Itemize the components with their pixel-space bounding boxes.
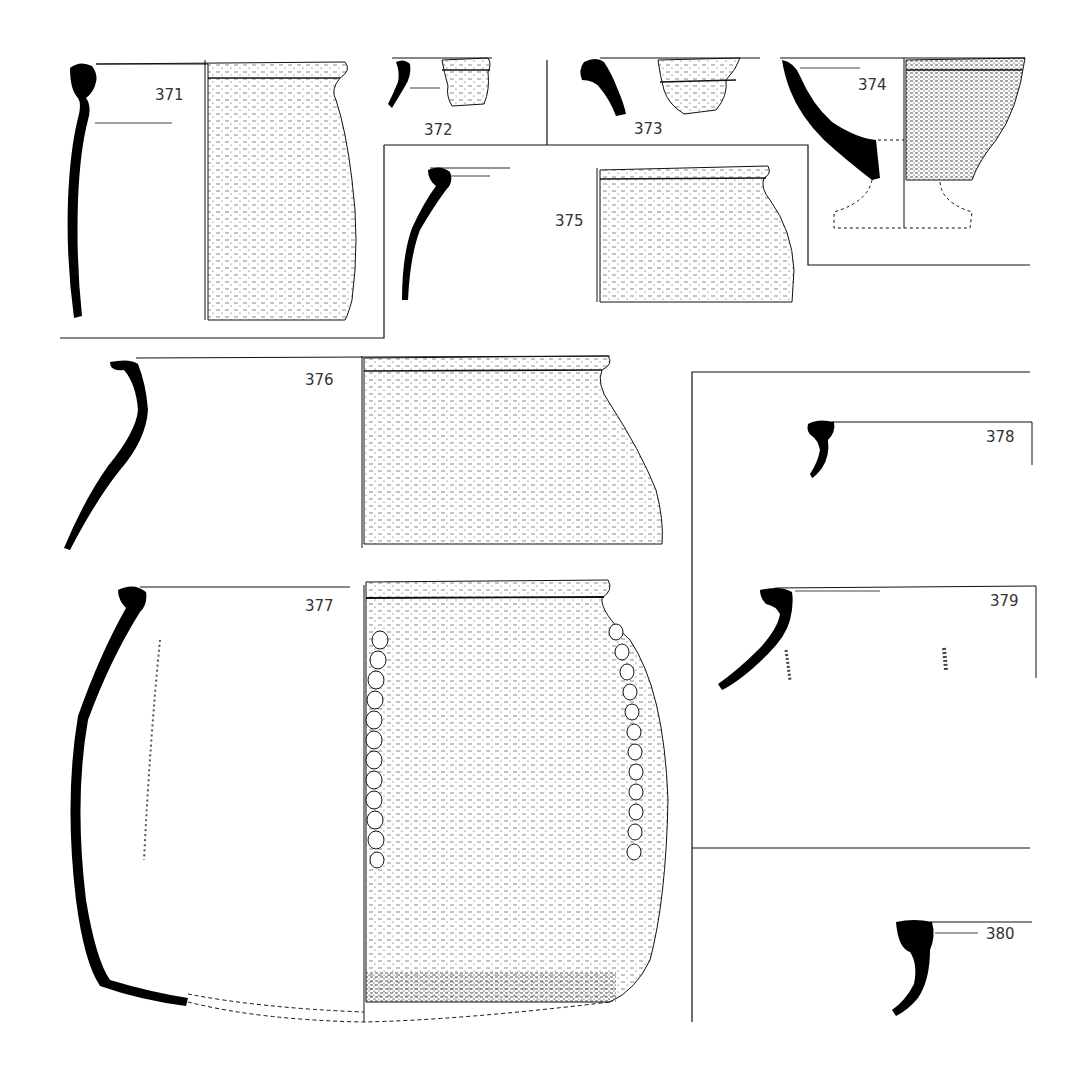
vessel-371: 371 xyxy=(68,60,356,320)
vessel-372: 372 xyxy=(388,58,490,139)
vessel-379: 379 xyxy=(718,586,1036,690)
vessel-374: 374 xyxy=(780,58,1025,228)
label-376: 376 xyxy=(305,371,334,389)
pottery-plate: 371 372 373 374 375 xyxy=(0,0,1092,1075)
vessel-380: 380 xyxy=(892,920,1032,1016)
vessel-373: 373 xyxy=(580,58,740,138)
label-377: 377 xyxy=(305,597,334,615)
label-374: 374 xyxy=(858,76,887,94)
label-378: 378 xyxy=(986,428,1015,446)
label-371: 371 xyxy=(155,86,184,104)
vessel-378: 378 xyxy=(808,420,1033,478)
label-375: 375 xyxy=(555,212,584,230)
label-380: 380 xyxy=(986,925,1015,943)
label-379: 379 xyxy=(990,592,1019,610)
vessel-375: 375 xyxy=(402,166,794,302)
vessel-377: 377 xyxy=(70,580,668,1022)
label-373: 373 xyxy=(634,120,663,138)
label-372: 372 xyxy=(424,121,453,139)
vessel-376: 376 xyxy=(64,356,662,550)
